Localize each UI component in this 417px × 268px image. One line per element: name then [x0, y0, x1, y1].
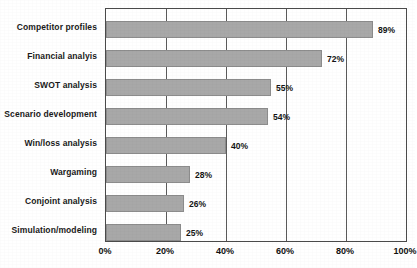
bar-value-label: 72%: [327, 54, 344, 64]
bar: [106, 195, 184, 212]
x-tick-label: 20%: [156, 246, 174, 256]
bar: [106, 108, 268, 125]
bar-value-label: 40%: [231, 141, 248, 151]
bar-value-label: 89%: [378, 25, 395, 35]
bar-value-label: 26%: [189, 199, 206, 209]
bar-value-label: 55%: [276, 83, 293, 93]
category-label: Wargaming: [0, 167, 97, 177]
category-label: SWOT analysis: [0, 80, 97, 90]
plot-area: 89% 72% 55% 54% 40% 28% 26% 25%: [105, 8, 407, 242]
bar-value-label: 25%: [186, 228, 203, 238]
x-axis: 0% 20% 40% 60% 80% 100%: [105, 240, 407, 262]
x-tick-label: 80%: [336, 246, 354, 256]
gridline-60: [286, 9, 287, 241]
bar: [106, 224, 181, 241]
category-label: Financial analyis: [0, 51, 97, 61]
x-tick-label: 60%: [276, 246, 294, 256]
category-label: Scenario development: [0, 109, 97, 119]
bar-value-label: 28%: [195, 170, 212, 180]
category-label: Competitor profiles: [0, 22, 97, 32]
gridline-80: [346, 9, 347, 241]
x-tick-label: 0%: [98, 246, 111, 256]
bar: [106, 166, 190, 183]
bar: [106, 137, 226, 154]
category-label: Win/loss analysis: [0, 138, 97, 148]
x-tick-label: 40%: [216, 246, 234, 256]
category-label: Simulation/modeling: [0, 225, 97, 235]
bar: [106, 50, 322, 67]
gridline-40: [226, 9, 227, 241]
category-axis-labels: Competitor profiles Financial analyis SW…: [0, 8, 101, 240]
bar: [106, 21, 373, 38]
bar-value-label: 54%: [273, 112, 290, 122]
x-tick-label: 100%: [393, 246, 416, 256]
bar: [106, 79, 271, 96]
category-label: Conjoint analysis: [0, 196, 97, 206]
